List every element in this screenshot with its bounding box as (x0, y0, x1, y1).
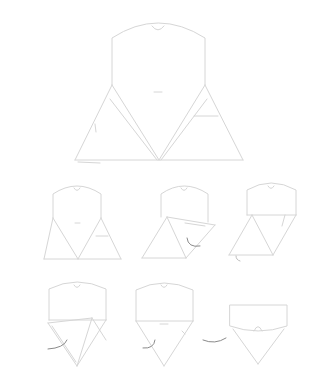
template-top-flap (112, 23, 205, 85)
diagram-svg (0, 0, 316, 385)
right-outer-edge (101, 218, 121, 259)
bottom-left-mark (78, 162, 100, 163)
top-flap (161, 186, 208, 222)
top-flap (247, 183, 296, 215)
right-crease (159, 85, 205, 160)
right-outer-edge (77, 320, 106, 366)
folded-flap-right (186, 225, 215, 258)
right-edge (258, 329, 284, 364)
right-outer-edge (205, 85, 243, 160)
left-outer-edge (142, 217, 167, 258)
step-2-template (44, 186, 121, 259)
right-crease-inner (161, 99, 207, 160)
right-crease (92, 318, 106, 340)
left-outer-edge (75, 85, 112, 160)
tucked-tab-icon (254, 327, 262, 332)
left-fold-mark (95, 124, 96, 132)
right-flap-mark (282, 215, 285, 226)
right-edge (164, 321, 193, 366)
tab-notch-icon (74, 285, 80, 288)
step-7-finished (203, 305, 287, 364)
step-3-template (142, 186, 215, 258)
step-6-template (136, 283, 193, 366)
top-flap (136, 283, 193, 321)
tab-notch-icon (152, 26, 164, 30)
tab-notch-icon (181, 188, 187, 191)
left-outer-edge (48, 323, 77, 366)
left-crease-inner (110, 99, 157, 160)
fold-arrow-icon (187, 238, 200, 246)
step-1-template (75, 23, 243, 163)
folding-diagram (0, 0, 316, 385)
right-crease (78, 218, 101, 259)
step-4-template (229, 183, 296, 261)
tab-notch-icon (161, 285, 167, 288)
right-flap-mark (182, 331, 185, 334)
small-curve-mark (236, 256, 240, 261)
left-edge (136, 321, 164, 366)
step-5-template (48, 282, 106, 366)
finished-top-band (230, 305, 287, 331)
left-edge (233, 329, 258, 364)
left-crease (53, 218, 78, 259)
left-outer-edge (44, 218, 53, 259)
left-crease (112, 85, 159, 160)
center-crease (252, 215, 273, 255)
center-crease (77, 318, 92, 366)
tab-notch-icon (74, 188, 80, 191)
left-crease (167, 217, 186, 258)
tab-notch-icon (268, 186, 274, 189)
right-outer-edge (273, 215, 296, 255)
flap-crease (185, 223, 205, 226)
left-outer-edge (229, 215, 252, 255)
tuck-arrow-icon (203, 338, 226, 342)
